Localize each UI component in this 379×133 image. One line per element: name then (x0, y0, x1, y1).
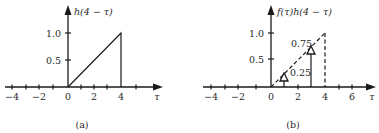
caption-a: (a) (75, 119, 88, 130)
impulse-label: 0.25 (290, 67, 311, 78)
x-axis-label: τ (154, 91, 160, 102)
x-tick-label: 4 (322, 91, 328, 102)
x-axis-label: τ (369, 91, 375, 102)
x-tick-label: 2 (91, 91, 97, 102)
panel-b: −4 −2 0 2 4 6 τ 1.0 0.5 f(τ)h(4 − τ) 0.2… (203, 5, 376, 130)
x-tick-label: −4 (5, 91, 19, 102)
y-axis-arrowhead-icon (268, 5, 275, 15)
x-tick-label: 6 (349, 91, 355, 102)
x-tick-label: 2 (295, 91, 301, 102)
h-curve (68, 33, 121, 87)
tau-axis-arrowhead-icon (366, 84, 376, 91)
x-tick-label: −2 (32, 91, 46, 102)
y-tick-label: 0.5 (249, 54, 264, 65)
y-tick-label: 0.5 (46, 55, 61, 66)
panel-a: −4 −2 0 2 4 τ 1.0 0.5 h(4 − τ) (a) (5, 5, 163, 130)
caption-b: (b) (286, 119, 300, 130)
x-tick-label: −4 (204, 91, 218, 102)
y-axis-label: h(4 − τ) (74, 6, 113, 17)
y-axis-arrowhead-icon (65, 5, 72, 15)
y-axis-label: f(τ)h(4 − τ) (276, 6, 332, 17)
x-tick-label: 0 (268, 91, 274, 102)
tau-axis-arrowhead-icon (153, 84, 163, 91)
x-tick-label: 0 (65, 91, 71, 102)
x-tick-label: −2 (231, 91, 245, 102)
impulse-label: 0.75 (291, 38, 312, 49)
y-tick-label: 1.0 (249, 28, 264, 39)
y-tick-label: 1.0 (46, 28, 61, 39)
x-tick-label: 4 (118, 91, 124, 102)
